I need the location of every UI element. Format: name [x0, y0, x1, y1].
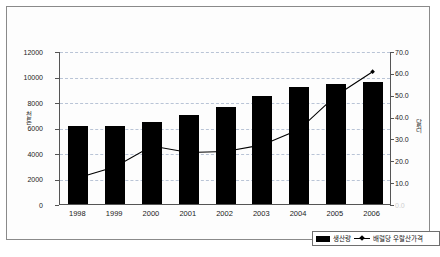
bar [142, 122, 162, 204]
x-axis-tick-label: 1999 [94, 210, 134, 218]
y-axis-right-tick-label: 50.0 [395, 92, 409, 99]
x-axis-tick-label: 2003 [241, 210, 281, 218]
y-axis-right-tick-label: 40.0 [395, 114, 409, 121]
y-axis-left-tick-label: 12000 [24, 49, 43, 56]
legend-bar-label: 생산량 [333, 235, 351, 242]
y-axis-left-title: 천톤 [25, 111, 33, 125]
legend-line-label: 배럴당 우랄산가격 [373, 235, 423, 242]
x-axis-tick-label: 2001 [168, 210, 208, 218]
bar [326, 84, 346, 204]
x-axis-tick-label: 2004 [278, 210, 318, 218]
x-axis-tick-label: 2000 [131, 210, 171, 218]
y-axis-left-tick-label: 2000 [27, 176, 43, 183]
y-axis-right-tick-label: 30.0 [395, 136, 409, 143]
bar [363, 82, 383, 204]
x-axis-tick-label: 2005 [315, 210, 355, 218]
y-axis-right-tick-label: 0.0 [395, 202, 405, 209]
y-axis-right-tick-label: 20.0 [395, 158, 409, 165]
y-axis-right-tick-label: 10.0 [395, 180, 409, 187]
x-axis-tick-label: 2002 [205, 210, 245, 218]
y-axis-left-tick-label: 8000 [27, 100, 43, 107]
legend-bar-swatch [316, 236, 330, 242]
bar [68, 126, 88, 204]
y-axis-left-tick-label: 0 [39, 202, 43, 209]
bar [179, 115, 199, 204]
gridline [60, 78, 390, 79]
y-axis-left-tick-mark [55, 205, 59, 206]
plot-area [59, 52, 390, 205]
y-axis-right-tick-mark [390, 205, 394, 206]
bar [105, 126, 125, 204]
y-axis-right-spine [390, 52, 391, 205]
y-axis-left-tick-label: 6000 [27, 125, 43, 132]
legend-line-marker-icon [354, 235, 370, 242]
y-axis-right-tick-label: 60.0 [395, 70, 409, 77]
chart-legend: 생산량 배럴당 우랄산가격 [312, 231, 440, 246]
bar [252, 96, 272, 204]
y-axis-left-tick-label: 10000 [24, 74, 43, 81]
x-axis-tick-label: 2006 [352, 210, 392, 218]
y-axis-right-title: 달러 [415, 119, 423, 133]
gridline [60, 52, 390, 53]
x-axis-tick-label: 1998 [57, 210, 97, 218]
chart-figure-frame: 천톤 달러 020004000600080001000012000 0.010.… [6, 6, 430, 240]
bar [216, 107, 236, 204]
y-axis-right-tick-label: 70.0 [395, 49, 409, 56]
y-axis-left-tick-label: 4000 [27, 151, 43, 158]
bar [289, 87, 309, 204]
